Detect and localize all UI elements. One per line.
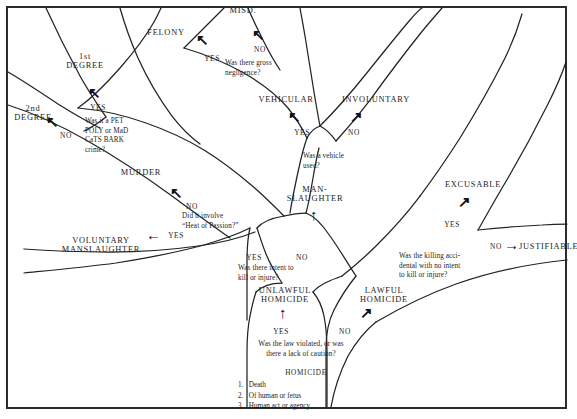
question-accidental: Was the killing acci- dental with no int… <box>399 252 495 281</box>
label-voluntary-manslaughter: VOLUNTARY MANSLAUGHTER <box>48 236 154 254</box>
involuntary-notch-right <box>320 126 336 141</box>
branch-no-law-violated: NO <box>331 328 359 336</box>
branch-no-pet-poly: NO <box>52 132 80 140</box>
excusable-left-boundary <box>420 14 522 196</box>
question-heat-of-passion: Did it involve “Heat of Passion?” <box>182 212 274 231</box>
question-pet-poly: Was it a PET POLY or MaD CaTS BARK crime… <box>85 117 147 156</box>
arrow-up-left-first-degree: ↖ <box>88 86 101 101</box>
involuntary-left-boundary <box>320 8 422 126</box>
branch-yes-intent-to-kill: YES <box>240 254 268 262</box>
homicide-definition-item: 2. Of human or fetus <box>238 391 368 402</box>
arrow-up-manslaughter: ↑ <box>310 208 318 223</box>
branch-yes-pet-poly: YES <box>84 104 112 112</box>
arrow-up-right-lawful-homicide: ↗ <box>360 306 373 321</box>
question-law-violated: Was the law violated, or was there a lac… <box>225 340 377 359</box>
question-gross-negligence: Was there gross negligence? <box>225 59 295 78</box>
question-vehicle-used: Was a vehicle used? <box>303 152 365 171</box>
label-murder: MURDER <box>113 168 169 177</box>
label-misdemeanor: MISD. <box>215 6 271 15</box>
arrow-up-left-murder: ↖ <box>170 186 183 201</box>
arrow-up-left-misdemeanor: ↖ <box>252 28 265 43</box>
homicide-definition-item: 1. Death <box>238 380 368 391</box>
arrow-up-left-felony: ↖ <box>196 33 209 48</box>
branch-yes-heat-of-passion: YES <box>162 232 190 240</box>
branch-no-gross-negligence: NO <box>245 46 275 54</box>
diagram-page: MISD. ↖ NO Was there gross negligence? F… <box>0 0 577 419</box>
label-vehicular: VEHICULAR <box>255 95 317 104</box>
intent-notch-mid <box>284 213 306 216</box>
label-lawful-homicide: LAWFUL HOMICIDE <box>346 286 422 304</box>
arrow-right-justifiable: → <box>504 238 519 253</box>
branch-no-vehicle-used: NO <box>340 129 368 137</box>
branch-no-heat-of-passion: NO <box>178 203 206 211</box>
branch-yes-vehicle-used: YES <box>288 129 316 137</box>
branch-yes-accidental: YES <box>438 221 466 229</box>
homicide-definition-block: HOMICIDE 1. Death 2. Of human or fetus 3… <box>238 368 368 412</box>
homicide-definition-title: HOMICIDE <box>244 368 368 379</box>
label-excusable: EXCUSABLE <box>440 180 506 189</box>
arrow-up-left-vehicular: ↖ <box>288 110 301 125</box>
label-involuntary: INVOLUNTARY <box>340 95 412 104</box>
vehicular-stem <box>300 8 320 126</box>
question-intent-to-kill: Was there intent to kill or injure? <box>238 264 334 283</box>
branch-yes-felony: YES <box>198 55 226 63</box>
justifiable-upper-boundary <box>478 224 567 230</box>
branch-yes-law-violated: YES <box>267 328 295 336</box>
label-first-degree: 1st DEGREE <box>60 52 110 70</box>
arrow-up-right-involuntary: ↗ <box>350 110 363 125</box>
excusable-right-boundary <box>478 62 566 230</box>
label-felony: FELONY <box>138 28 194 37</box>
arrow-up-left-second-degree: ↖ <box>46 115 59 130</box>
label-unlawful-homicide: UNLAWFUL HOMICIDE <box>247 286 323 304</box>
arrow-up-right-excusable: ↗ <box>458 195 471 210</box>
arrow-up-unlawful-homicide: ↑ <box>279 306 287 321</box>
label-manslaughter: MAN- SLAUGHTER <box>280 185 350 203</box>
label-justifiable: JUSTIFIABLE <box>519 242 577 251</box>
homicide-definition-item: 3. Human act or agency <box>238 401 368 412</box>
branch-no-intent-to-kill: NO <box>288 254 316 262</box>
